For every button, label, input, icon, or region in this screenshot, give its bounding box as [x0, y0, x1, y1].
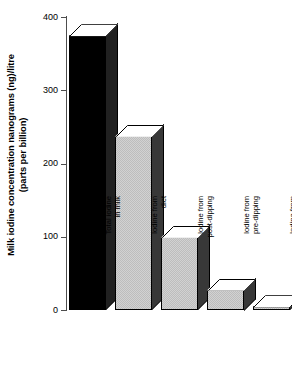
- y-tick-mark: [61, 310, 67, 311]
- x-axis-label-2: Iodine from post-dipping: [196, 196, 214, 316]
- x-axis-label-3: Iodine from pre-dipping: [242, 196, 260, 316]
- y-tick-label: 0: [18, 306, 58, 315]
- y-tick-label: 100: [18, 232, 58, 241]
- y-axis-title: Milk iodine concentration nanograms (ng)…: [0, 0, 34, 310]
- y-tick-label: 400: [18, 13, 58, 22]
- bar-chart-figure: Milk iodine concentration nanograms (ng)…: [0, 0, 292, 390]
- bar-0: [69, 23, 106, 310]
- x-axis-label-1: Iodine from diet: [150, 196, 168, 316]
- x-axis-label-0: Total iodine in milk: [104, 196, 122, 316]
- x-axis-label-4: Iodine from udder wash and tank cleaner: [288, 196, 293, 316]
- y-tick-label: 300: [18, 86, 58, 95]
- y-axis-title-line-1: Milk iodine concentration nanograms (ng)…: [5, 54, 17, 256]
- y-axis-title-text: Milk iodine concentration nanograms (ng)…: [5, 54, 28, 256]
- y-axis-title-line-2: (parts per billion): [17, 54, 29, 256]
- bar-front-face: [69, 35, 106, 310]
- y-tick-label: 200: [18, 159, 58, 168]
